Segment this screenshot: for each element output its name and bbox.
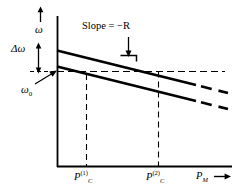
delta-omega-arrow-icon [36,43,42,74]
pc2-subscript: C [160,177,164,184]
delta-omega-label: Δω [11,43,25,54]
tick-label-pc1: P(1)C [74,170,92,184]
y-axis-label: ω [35,24,43,35]
omega-zero-base: ω [21,83,29,95]
pc1-superscript: (1) [80,169,88,176]
omega-zero-label: ω0 [21,84,32,98]
axes-group [57,16,232,167]
tick-label-pc2: P(2)C [146,170,164,184]
x-axis-arrow-icon [214,173,231,179]
pc1-subscript: C [88,177,92,184]
slope-annotation-label: Slope = −R [82,21,130,32]
omega-zero-subscript: 0 [29,90,32,97]
upper-droop-line-extension [201,86,228,93]
x-axis-label: PM [196,171,208,184]
pm-subscript: M [202,176,207,183]
y-axis-arrow-icon [38,7,44,23]
slope-pointer-arrow-icon [126,37,132,57]
droop-characteristic-figure: ω Δω ω0 Slope = −R P(1)C P(2)C PM [0,0,239,193]
pc2-superscript: (2) [152,169,160,176]
lower-droop-line-extension [201,102,228,109]
